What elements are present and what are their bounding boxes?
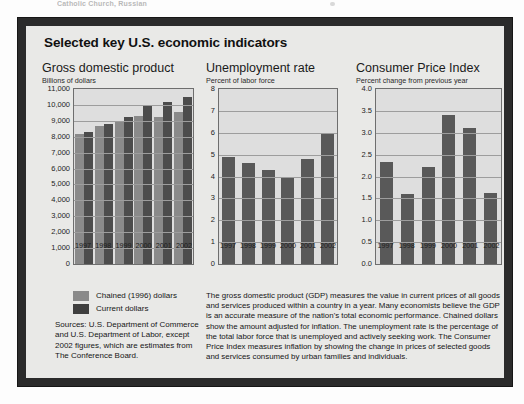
bar-group xyxy=(173,89,193,264)
y-tick-label: 4.0 xyxy=(362,85,372,93)
y-tick-label: 0.0 xyxy=(362,260,372,268)
legend-swatch xyxy=(73,304,89,314)
y-tick-label: 7 xyxy=(211,107,215,115)
chart-unemployment-x-axis: 199719981999200020012002 xyxy=(218,241,338,250)
x-tick-label: 1998 xyxy=(396,241,417,250)
y-tick-label: 0 xyxy=(211,260,215,268)
gridline xyxy=(74,184,193,185)
page: Catholic Church, Russian Selected key U.… xyxy=(0,0,524,404)
x-tick-label: 1998 xyxy=(238,241,258,250)
gridline xyxy=(74,169,193,170)
chart-cpi: Consumer Price Index Percent change from… xyxy=(356,62,502,265)
gridline xyxy=(219,133,337,134)
x-tick-label: 1998 xyxy=(93,241,113,250)
chart-cpi-title: Consumer Price Index xyxy=(356,62,502,75)
x-tick-label: 1997 xyxy=(218,241,238,250)
chart-cpi-x-axis: 199719981999200020012002 xyxy=(375,241,502,250)
chart-cpi-plot: 0.00.51.01.52.02.53.03.54.0 xyxy=(375,88,502,265)
figure-frame: Selected key U.S. economic indicators Gr… xyxy=(18,18,512,386)
chart-cpi-subtitle: Percent change from previous year xyxy=(356,76,502,85)
bar xyxy=(484,193,497,264)
bar-group xyxy=(94,89,114,264)
chart-gdp-bars xyxy=(74,89,193,264)
y-tick-label: 0.5 xyxy=(362,238,372,246)
y-tick-label: 4 xyxy=(211,173,215,181)
y-tick-label: 9,000 xyxy=(51,117,70,125)
y-tick-label: 1.5 xyxy=(362,194,372,202)
chart-unemployment-title: Unemployment rate xyxy=(206,62,338,75)
y-tick-label: 2.5 xyxy=(362,151,372,159)
y-tick-label: 8 xyxy=(211,85,215,93)
y-tick-label: 1.0 xyxy=(362,216,372,224)
figure-sources: Sources: U.S. Department of Commerce and… xyxy=(55,320,205,362)
x-tick-label: 2002 xyxy=(174,241,194,250)
figure-panel: Selected key U.S. economic indicators Gr… xyxy=(26,26,504,378)
legend-label: Current dollars xyxy=(96,304,148,314)
gridline xyxy=(219,111,337,112)
y-tick-label: 5,000 xyxy=(51,180,70,188)
y-tick-label: 5 xyxy=(211,151,215,159)
gridline xyxy=(74,232,193,233)
bar-group xyxy=(133,89,153,264)
y-tick-label: 6 xyxy=(211,129,215,137)
y-tick-label: 2 xyxy=(211,216,215,224)
y-tick-label: 4,000 xyxy=(51,196,70,204)
chart-cpi-y-axis: 0.00.51.01.52.02.53.03.54.0 xyxy=(355,89,372,264)
chart-unemployment: Unemployment rate Percent of labor force… xyxy=(206,62,338,265)
gridline xyxy=(74,153,193,154)
legend-item-current: Current dollars xyxy=(73,304,177,314)
y-tick-label: 3.0 xyxy=(362,129,372,137)
bar-group xyxy=(114,89,134,264)
chart-gdp-plot: 01,0002,0003,0004,0005,0006,0007,0008,00… xyxy=(73,88,194,265)
legend-item-chained: Chained (1996) dollars xyxy=(73,291,177,301)
bar-group xyxy=(74,89,94,264)
y-tick-label: 2,000 xyxy=(51,228,70,236)
y-tick-label: 8,000 xyxy=(51,133,70,141)
gridline xyxy=(376,220,501,221)
figure-legend: Chained (1996) dollarsCurrent dollars xyxy=(73,291,177,317)
gridline xyxy=(376,133,501,134)
y-tick-label: 11,000 xyxy=(48,85,70,93)
bar-group xyxy=(153,89,173,264)
y-tick-label: 7,000 xyxy=(51,149,70,157)
gridline xyxy=(74,137,193,138)
y-tick-label: 3 xyxy=(211,194,215,202)
y-tick-label: 6,000 xyxy=(51,165,70,173)
scan-artifact-dot xyxy=(330,2,335,6)
chart-gdp-y-axis: 01,0002,0003,0004,0005,0006,0007,0008,00… xyxy=(41,89,70,264)
x-tick-label: 1999 xyxy=(113,241,133,250)
chart-gdp: Gross domestic product Billions of dolla… xyxy=(42,62,194,265)
y-tick-label: 3,000 xyxy=(51,212,70,220)
x-tick-label: 2002 xyxy=(481,241,502,250)
y-tick-label: 10,000 xyxy=(47,101,70,109)
gridline xyxy=(219,177,337,178)
legend-label: Chained (1996) dollars xyxy=(96,291,177,301)
gridline xyxy=(376,155,501,156)
x-tick-label: 2001 xyxy=(154,241,174,250)
y-tick-label: 1 xyxy=(211,238,215,246)
x-tick-label: 2000 xyxy=(439,241,460,250)
gridline xyxy=(376,198,501,199)
gridline xyxy=(219,198,337,199)
x-tick-label: 2000 xyxy=(278,241,298,250)
gridline xyxy=(219,155,337,156)
x-tick-label: 1997 xyxy=(73,241,93,250)
y-tick-label: 1,000 xyxy=(51,244,70,252)
gridline xyxy=(74,216,193,217)
y-tick-label: 2.0 xyxy=(362,173,372,181)
x-tick-label: 1999 xyxy=(258,241,278,250)
figure-title: Selected key U.S. economic indicators xyxy=(44,35,287,50)
gridline xyxy=(74,121,193,122)
gridline xyxy=(376,177,501,178)
scan-top-fragment: Catholic Church, Russian xyxy=(57,0,207,9)
x-tick-label: 2000 xyxy=(134,241,154,250)
y-tick-label: 0 xyxy=(66,260,70,268)
x-tick-label: 1999 xyxy=(417,241,438,250)
gridline xyxy=(74,200,193,201)
chart-gdp-x-axis: 199719981999200020012002 xyxy=(73,241,194,250)
gridline xyxy=(74,105,193,106)
x-tick-label: 2001 xyxy=(460,241,481,250)
bar xyxy=(401,194,414,264)
x-tick-label: 2002 xyxy=(318,241,338,250)
gridline xyxy=(219,220,337,221)
